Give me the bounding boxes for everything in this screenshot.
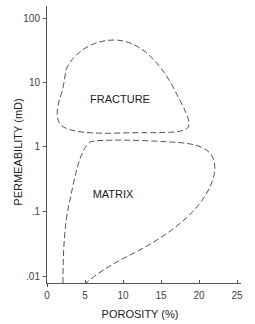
y-tick-0.01: .01 (26, 271, 40, 282)
x-tick-10: 10 (117, 290, 129, 301)
matrix-region-outline (63, 140, 215, 283)
x-tick-20: 20 (193, 290, 205, 301)
fracture-region-outline (57, 40, 189, 133)
y-axis-title: PERMEABILITY (mD) (12, 98, 24, 205)
y-tick-10: 10 (29, 77, 41, 88)
y-tick-100: 100 (23, 13, 40, 24)
porosity-permeability-chart: 100 10 1 .1 .01 0 5 10 15 20 25 POROSITY… (0, 0, 255, 324)
axes (43, 6, 241, 287)
x-tick-0: 0 (44, 290, 50, 301)
x-tick-25: 25 (231, 290, 243, 301)
fracture-label: FRACTURE (90, 93, 150, 105)
x-axis-title: POROSITY (%) (102, 308, 179, 320)
y-tick-1: 1 (34, 141, 40, 152)
matrix-label: MATRIX (93, 188, 134, 200)
x-tick-15: 15 (155, 290, 167, 301)
x-tick-5: 5 (82, 290, 88, 301)
y-tick-0.1: .1 (32, 206, 41, 217)
